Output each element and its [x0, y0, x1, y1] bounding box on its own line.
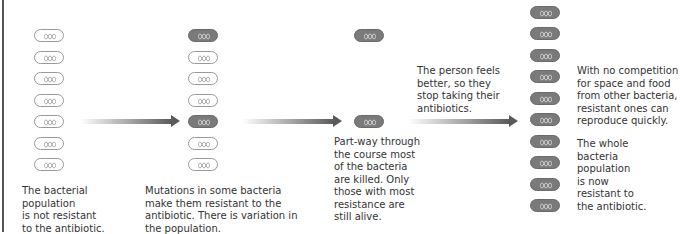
- non-resistant-bacterium: [34, 158, 64, 171]
- resistant-bacterium: [530, 27, 560, 40]
- bacterium-dna-icon: [539, 159, 553, 168]
- non-resistant-bacterium: [188, 94, 218, 107]
- resistant-bacterium: [530, 178, 560, 191]
- resistant-bacterium: [530, 135, 560, 148]
- resistant-bacterium: [530, 113, 560, 126]
- bacterium-dna-icon: [539, 181, 553, 190]
- non-resistant-bacterium: [34, 137, 64, 150]
- non-resistant-bacterium: [188, 158, 218, 171]
- stage-4-caption-2: The whole bacteria population is now res…: [577, 138, 646, 213]
- non-resistant-bacterium: [34, 72, 64, 85]
- bacterium-dna-icon: [539, 116, 553, 125]
- resistant-bacterium: [188, 115, 218, 128]
- arrow-head-icon: [333, 115, 342, 127]
- bacterium-dna-icon: [197, 161, 211, 170]
- resistant-bacterium: [530, 156, 560, 169]
- resistant-bacterium: [530, 49, 560, 62]
- bacterium-dna-icon: [197, 75, 211, 84]
- non-resistant-bacterium: [188, 51, 218, 64]
- bacterium-dna-icon: [539, 202, 553, 211]
- bacterium-dna-icon: [43, 118, 57, 127]
- bacterium-dna-icon: [539, 95, 553, 104]
- non-resistant-bacterium: [34, 115, 64, 128]
- resistant-bacterium: [354, 29, 384, 42]
- bacterium-dna-icon: [43, 161, 57, 170]
- bacterium-dna-icon: [43, 54, 57, 63]
- arrow-2: [242, 119, 342, 124]
- bacterium-dna-icon: [43, 75, 57, 84]
- non-resistant-bacterium: [34, 51, 64, 64]
- resistant-bacterium: [530, 70, 560, 83]
- non-resistant-bacterium: [34, 94, 64, 107]
- stage-4-caption: With no competition for space and food f…: [577, 65, 678, 128]
- stage-2-caption: Mutations in some bacteria make them res…: [145, 185, 297, 234]
- bacterium-dna-icon: [539, 138, 553, 147]
- resistant-bacterium: [188, 29, 218, 42]
- non-resistant-bacterium: [34, 29, 64, 42]
- bacterium-dna-icon: [539, 9, 553, 18]
- resistant-bacterium: [530, 6, 560, 19]
- bacterium-dna-icon: [197, 140, 211, 149]
- stage-3-caption: Part-way through the course most of the …: [334, 136, 420, 224]
- bacterium-dna-icon: [539, 73, 553, 82]
- non-resistant-bacterium: [188, 137, 218, 150]
- bacterium-dna-icon: [197, 97, 211, 106]
- arrow-3: [408, 119, 518, 124]
- non-resistant-bacterium: [188, 72, 218, 85]
- stage-1-caption: The bacterial population is not resistan…: [22, 185, 105, 234]
- bacterium-dna-icon: [539, 30, 553, 39]
- bacterium-dna-icon: [197, 118, 211, 127]
- arrow-1: [80, 119, 180, 124]
- bacterium-dna-icon: [43, 97, 57, 106]
- bacterium-dna-icon: [363, 118, 377, 127]
- bacterium-dna-icon: [197, 32, 211, 41]
- resistant-bacterium: [354, 115, 384, 128]
- bacterium-dna-icon: [43, 32, 57, 41]
- arrow-3-label: The person feels better, so they stop ta…: [417, 65, 500, 115]
- bacterium-dna-icon: [197, 54, 211, 63]
- resistant-bacterium: [530, 92, 560, 105]
- left-border: [2, 0, 4, 232]
- bacterium-dna-icon: [43, 140, 57, 149]
- bacterium-dna-icon: [539, 52, 553, 61]
- resistant-bacterium: [530, 199, 560, 212]
- bacterium-dna-icon: [363, 32, 377, 41]
- arrow-head-icon: [171, 115, 180, 127]
- arrow-head-icon: [509, 115, 518, 127]
